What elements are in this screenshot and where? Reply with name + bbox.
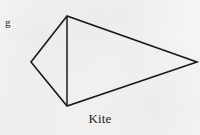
figure-caption: Kite xyxy=(0,112,200,127)
kite-outline xyxy=(31,16,197,106)
figure-page: g Kite xyxy=(0,0,200,135)
corner-label-g: g xyxy=(5,17,11,28)
